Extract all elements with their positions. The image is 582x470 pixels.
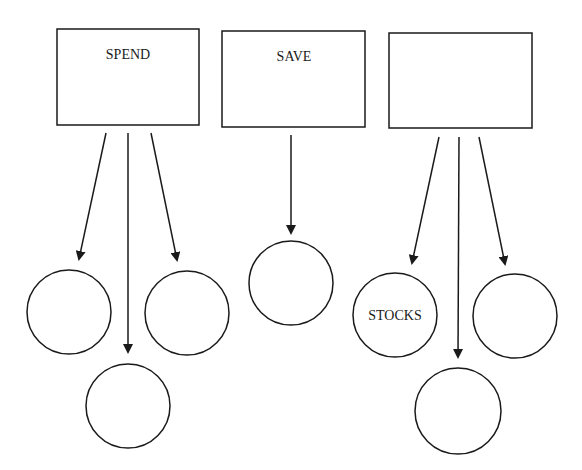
arrow-spend-right: [151, 133, 177, 260]
box-label-spend: SPEND: [106, 47, 150, 62]
diagram-canvas: SPEND SAVE STOCKS: [0, 0, 582, 470]
circle-spend-bottom: [86, 364, 170, 448]
arrow-third-bottom: [458, 137, 459, 357]
box-label-save: SAVE: [277, 49, 312, 64]
arrow-spend-left: [79, 133, 106, 259]
arrow-third-right: [479, 137, 505, 264]
box-spend: SPEND: [57, 29, 199, 125]
circle-third-bottom: [415, 368, 501, 454]
box-save: SAVE: [222, 31, 365, 127]
circle-label-stocks: STOCKS: [368, 308, 421, 323]
circle-save: [249, 241, 333, 325]
arrow-third-left: [412, 137, 439, 263]
circle-spend-right: [145, 271, 229, 355]
circle-third-right: [473, 274, 557, 358]
box-third: [389, 33, 532, 128]
circle-spend-left: [27, 270, 111, 354]
